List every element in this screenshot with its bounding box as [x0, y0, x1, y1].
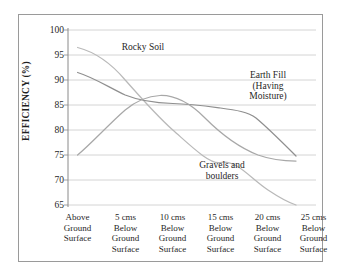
x-tick-line: Surface	[152, 244, 193, 255]
x-tick-line: Ground	[200, 233, 241, 244]
x-tick-15cms-below-ground-surface: 15 cms Below Ground Surface	[200, 212, 241, 254]
annotation-line: (Having	[228, 81, 308, 92]
y-axis-title: EFFICIENCY (%)	[21, 36, 31, 166]
x-tick-line: 10 cms	[152, 212, 193, 223]
x-tick-line: Below	[152, 223, 193, 234]
y-tick-80: 80	[40, 125, 64, 135]
annotation-line: Gravels and	[180, 160, 264, 171]
x-tick-20cms-below-ground-surface: 20 cms Below Ground Surface	[247, 212, 288, 254]
x-tick-line: Ground	[105, 233, 146, 244]
y-tick-70: 70	[40, 175, 64, 185]
x-tick-25cms-below-ground-surface: 25 cms Below Ground Surface	[293, 212, 334, 254]
x-tick-5cms-below-ground-surface: 5 cms Below Ground Surface	[105, 212, 146, 254]
x-tick-line: 5 cms	[105, 212, 146, 223]
y-tick-65: 65	[40, 200, 64, 210]
x-tick-line: 25 cms	[293, 212, 334, 223]
x-tick-line: Surface	[200, 244, 241, 255]
series-annotation-gravels-boulders: Gravels and boulders	[180, 160, 264, 181]
x-tick-line: Ground	[247, 233, 288, 244]
series-annotation-rocky-soil: Rocky Soil	[104, 42, 182, 53]
x-tick-line: Below	[105, 223, 146, 234]
series-annotation-earth-fill: Earth Fill (Having Moisture)	[228, 70, 308, 102]
x-tick-line: 20 cms	[247, 212, 288, 223]
y-tick-85: 85	[40, 100, 64, 110]
x-tick-line: Below	[200, 223, 241, 234]
annotation-line: Moisture)	[228, 91, 308, 102]
chart-figure: EFFICIENCY (%) 100 95 90 85 80 75 70 65	[0, 0, 337, 274]
y-tick-95: 95	[40, 50, 64, 60]
y-tick-90: 90	[40, 75, 64, 85]
x-tick-line: Below	[247, 223, 288, 234]
x-tick-line: Below	[293, 223, 334, 234]
y-tick-100: 100	[40, 25, 64, 35]
x-tick-line: Ground	[57, 223, 98, 234]
x-tick-line: Above	[57, 212, 98, 223]
x-tick-line: 15 cms	[200, 212, 241, 223]
x-tick-line: Ground	[152, 233, 193, 244]
x-tick-above-ground-surface: Above Ground Surface	[57, 212, 98, 244]
annotation-line: Rocky Soil	[104, 42, 182, 53]
x-tick-line: Surface	[105, 244, 146, 255]
x-tick-line: Surface	[247, 244, 288, 255]
annotation-line: boulders	[180, 171, 264, 182]
x-tick-line: Surface	[57, 233, 98, 244]
x-tick-line: Surface	[293, 244, 334, 255]
y-tick-75: 75	[40, 150, 64, 160]
x-tick-line: Ground	[293, 233, 334, 244]
annotation-line: Earth Fill	[228, 70, 308, 81]
x-tick-10cms-below-ground-surface: 10 cms Below Ground Surface	[152, 212, 193, 254]
